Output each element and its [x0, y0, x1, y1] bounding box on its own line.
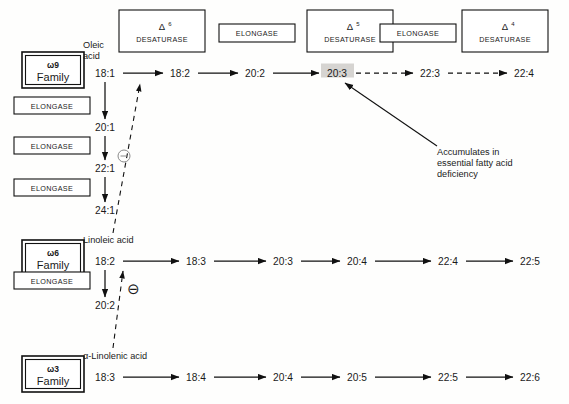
linoleic-acid-name: Linoleic acid — [83, 235, 134, 245]
enzyme-box-elongase-1: ELONGASE — [219, 24, 295, 42]
delta6-symbol: Δ — [159, 21, 166, 32]
node-w3-22-6: 22:6 — [520, 372, 540, 383]
node-w6-20-2: 20:2 — [95, 300, 115, 311]
family-box-omega9: ω9 Family — [22, 52, 84, 88]
enzyme-box-delta4-desaturase: Δ 4 DESATURASE — [462, 10, 548, 52]
family-box-omega3: ω3 Family — [22, 356, 84, 392]
node-w9-20-1: 20:1 — [95, 122, 115, 133]
node-w6-18-2: 18:2 — [95, 256, 115, 267]
enzyme-box-elongase-w9-1: ELONGASE — [14, 97, 90, 114]
node-w9-22-1: 22:1 — [95, 163, 115, 174]
alpha-linolenic-acid-name: α-Linolenic acid — [83, 351, 147, 361]
elongase-w9-1-label: ELONGASE — [31, 102, 73, 111]
annotation-line-1: Accumulates in — [437, 147, 499, 157]
oleic-acid-name-line1: Oleic — [83, 40, 104, 50]
omega9-symbol: ω9 — [47, 60, 59, 70]
enzyme-box-elongase-w9-2: ELONGASE — [14, 137, 90, 154]
omega3-symbol: ω3 — [47, 364, 59, 374]
enzyme-box-elongase-w9-3: ELONGASE — [14, 179, 90, 196]
elongase-2-label: ELONGASE — [397, 29, 439, 38]
omega3-family-label: Family — [37, 375, 70, 387]
minus-sign-w3-inhibits-w6: ⊖ — [127, 280, 140, 297]
node-w6-20-4: 20:4 — [347, 256, 367, 267]
annotation-pointer — [345, 83, 437, 146]
oleic-acid-name-line2: acid — [83, 51, 100, 61]
node-w6-22-5: 22:5 — [520, 256, 540, 267]
enzyme-box-delta6-desaturase: Δ 6 DESATURASE — [119, 10, 205, 52]
annotation-line-3: deficiency — [437, 169, 478, 179]
node-w9-20-2: 20:2 — [245, 68, 265, 79]
node-w6-18-3: 18:3 — [186, 256, 206, 267]
node-w3-20-4: 20:4 — [273, 372, 293, 383]
diagram-canvas: Δ 6 DESATURASE ELONGASE Δ 5 DESATURASE E… — [0, 0, 569, 404]
minus-sign-w6-inhibits-w9 — [118, 150, 130, 162]
node-w9-20-3: 20:3 — [327, 68, 347, 79]
enzyme-box-elongase-2: ELONGASE — [380, 24, 456, 42]
node-w9-18-2: 18:2 — [170, 68, 190, 79]
elongase-w9-3-label: ELONGASE — [31, 184, 73, 193]
elongase-w6-1-label: ELONGASE — [31, 277, 73, 286]
node-w9-22-4: 22:4 — [514, 68, 534, 79]
node-w9-18-1: 18:1 — [95, 68, 115, 79]
node-w3-20-5: 20:5 — [347, 372, 367, 383]
elongase-1-label: ELONGASE — [236, 29, 278, 38]
inhibition-line-w6-to-w9 — [113, 84, 140, 233]
delta5-desaturase-label: DESATURASE — [324, 35, 376, 44]
family-box-omega6: ω6 Family — [22, 240, 84, 276]
delta4-desaturase-label: DESATURASE — [479, 35, 531, 44]
pathway-diagram: Δ 6 DESATURASE ELONGASE Δ 5 DESATURASE E… — [0, 0, 569, 404]
enzyme-box-elongase-w6-1: ELONGASE — [14, 272, 90, 289]
node-w3-18-3: 18:3 — [95, 372, 115, 383]
node-w3-22-5: 22:5 — [438, 372, 458, 383]
omega6-symbol: ω6 — [47, 248, 59, 258]
annotation-line-2: essential fatty acid — [437, 158, 513, 168]
node-w3-18-4: 18:4 — [186, 372, 206, 383]
delta5-symbol: Δ — [347, 21, 354, 32]
node-w6-20-3: 20:3 — [273, 256, 293, 267]
omega6-family-label: Family — [37, 259, 70, 271]
delta6-desaturase-label: DESATURASE — [136, 35, 188, 44]
node-w9-24-1: 24:1 — [95, 205, 115, 216]
node-w6-22-4: 22:4 — [438, 256, 458, 267]
delta4-symbol: Δ — [502, 21, 509, 32]
node-w9-22-3: 22:3 — [420, 68, 440, 79]
omega9-family-label: Family — [37, 71, 70, 83]
elongase-w9-2-label: ELONGASE — [31, 142, 73, 151]
